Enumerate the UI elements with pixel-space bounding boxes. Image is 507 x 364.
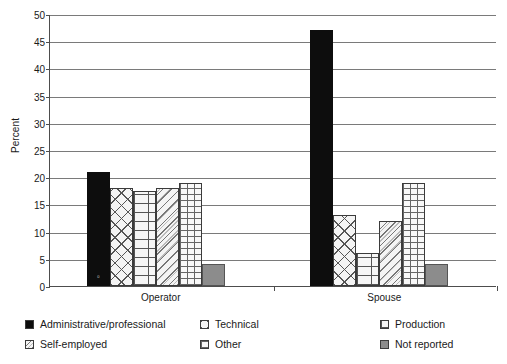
legend-item[interactable]: Other xyxy=(200,338,241,350)
legend-item[interactable]: Administrative/professional xyxy=(25,318,165,330)
legend-item[interactable]: Not reported xyxy=(380,338,453,350)
legend-label: Other xyxy=(215,338,241,350)
x-axis-end-tick xyxy=(497,286,498,291)
y-tick-label: 50 xyxy=(34,10,45,21)
legend-swatch-icon xyxy=(25,340,34,349)
y-tick-label: 40 xyxy=(34,64,45,75)
bar-value-annotation: 0 xyxy=(97,274,99,279)
y-tick-label: 25 xyxy=(34,146,45,157)
legend-item[interactable]: Self-employed xyxy=(25,338,107,350)
y-tick-label: 45 xyxy=(34,37,45,48)
gridline xyxy=(50,124,496,125)
y-tick-label: 35 xyxy=(34,91,45,102)
y-tick-label: 20 xyxy=(34,173,45,184)
bar xyxy=(356,253,379,286)
gridline xyxy=(50,178,496,179)
gridline xyxy=(50,151,496,152)
legend-item[interactable]: Production xyxy=(380,318,445,330)
y-tick-mark xyxy=(46,233,50,234)
plot-area: 05101520253035404550 0 xyxy=(49,15,496,287)
y-tick-label: 0 xyxy=(39,282,45,293)
y-tick-mark xyxy=(46,124,50,125)
bar xyxy=(110,188,133,286)
y-tick-label: 30 xyxy=(34,118,45,129)
legend-swatch-icon xyxy=(200,340,209,349)
bar xyxy=(425,264,448,286)
y-tick-mark xyxy=(46,260,50,261)
bar xyxy=(379,221,402,286)
x-category-label-spouse: Spouse xyxy=(367,292,401,303)
y-tick-mark xyxy=(46,178,50,179)
bar xyxy=(310,30,333,286)
x-category-label-operator: Operator xyxy=(141,292,180,303)
bar xyxy=(179,183,202,286)
bar xyxy=(156,188,179,286)
legend-label: Production xyxy=(395,318,445,330)
y-tick-mark xyxy=(46,15,50,16)
y-tick-label: 15 xyxy=(34,200,45,211)
x-group-separator xyxy=(274,286,275,291)
legend-label: Administrative/professional xyxy=(40,318,165,330)
y-tick-mark xyxy=(46,42,50,43)
legend-label: Technical xyxy=(215,318,259,330)
gridline xyxy=(50,42,496,43)
legend-label: Self-employed xyxy=(40,338,107,350)
y-tick-label: 10 xyxy=(34,227,45,238)
y-tick-mark xyxy=(46,205,50,206)
bar xyxy=(333,215,356,286)
y-tick-mark xyxy=(46,287,50,288)
legend-label: Not reported xyxy=(395,338,453,350)
y-tick-mark xyxy=(46,151,50,152)
gridline xyxy=(50,15,496,16)
legend-swatch-icon xyxy=(380,320,389,329)
bar: 0 xyxy=(87,172,110,286)
y-tick-mark xyxy=(46,97,50,98)
bar xyxy=(402,183,425,286)
legend-item[interactable]: Technical xyxy=(200,318,259,330)
y-axis-title: Percent xyxy=(10,101,21,171)
bar xyxy=(133,191,156,286)
legend-swatch-icon xyxy=(200,320,209,329)
y-tick-mark xyxy=(46,69,50,70)
legend-swatch-icon xyxy=(380,340,389,349)
bar xyxy=(202,264,225,286)
gridline xyxy=(50,69,496,70)
y-tick-label: 5 xyxy=(39,254,45,265)
bar-chart: Percent 05101520253035404550 0 OperatorS… xyxy=(0,0,507,312)
gridline xyxy=(50,97,496,98)
chart-legend: Administrative/professionalTechnicalProd… xyxy=(0,316,507,362)
legend-swatch-icon xyxy=(25,320,34,329)
